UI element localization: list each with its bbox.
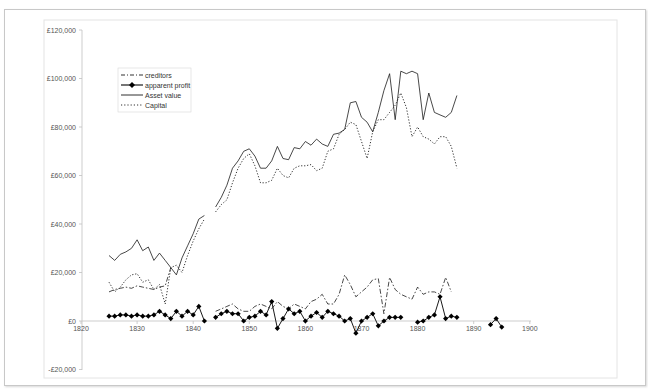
diamond-marker-icon: [443, 316, 448, 321]
diamond-marker-icon: [398, 315, 403, 320]
diamond-marker-icon: [426, 315, 431, 320]
series-creditors: [109, 268, 451, 314]
diamond-marker-icon: [202, 318, 207, 323]
diamond-marker-icon: [118, 312, 123, 317]
y-tick-label: £80,000: [51, 124, 76, 131]
legend-label: creditors: [145, 72, 172, 79]
x-tick-label: 1890: [466, 325, 482, 332]
diamond-marker-icon: [230, 311, 235, 316]
diamond-marker-icon: [387, 315, 392, 320]
diamond-marker-icon: [191, 312, 196, 317]
diamond-marker-icon: [432, 312, 437, 317]
y-tick-label: £40,000: [51, 221, 76, 228]
diamond-marker-icon: [106, 314, 111, 319]
diamond-marker-icon: [135, 312, 140, 317]
diamond-marker-icon: [213, 315, 218, 320]
line-chart: £120,000£100,000£80,000£60,000£40,000£20…: [0, 0, 648, 391]
diamond-marker-icon: [275, 326, 280, 331]
diamond-marker-icon: [140, 314, 145, 319]
legend-label: Capital: [145, 102, 167, 110]
diamond-marker-icon: [331, 311, 336, 316]
diamond-marker-icon: [454, 315, 459, 320]
x-tick-label: 1860: [298, 325, 314, 332]
series-line: [216, 275, 452, 314]
diamond-marker-icon: [163, 312, 168, 317]
diamond-marker-icon: [146, 314, 151, 319]
series-line: [216, 71, 457, 207]
diamond-marker-icon: [224, 309, 229, 314]
diamond-marker-icon: [123, 312, 128, 317]
diamond-marker-icon: [359, 318, 364, 323]
diamond-marker-icon: [112, 314, 117, 319]
diamond-marker-icon: [365, 315, 370, 320]
diamond-marker-icon: [280, 316, 285, 321]
legend-label: apparent profit: [145, 82, 190, 90]
x-tick-label: 1830: [129, 325, 145, 332]
y-tick-label: £120,000: [47, 27, 76, 34]
x-tick-label: 1880: [410, 325, 426, 332]
diamond-marker-icon: [269, 299, 274, 304]
diamond-marker-icon: [499, 324, 504, 329]
series-line: [109, 219, 204, 304]
diamond-marker-icon: [421, 318, 426, 323]
diamond-marker-icon: [370, 311, 375, 316]
y-tick-label: -£20,000: [48, 366, 76, 373]
diamond-marker-icon: [157, 309, 162, 314]
diamond-marker-icon: [297, 309, 302, 314]
x-tick-label: 1850: [242, 325, 258, 332]
diamond-marker-icon: [393, 315, 398, 320]
series-line: [109, 306, 204, 321]
series-line: [109, 268, 171, 292]
diamond-marker-icon: [219, 311, 224, 316]
diamond-marker-icon: [264, 312, 269, 317]
y-tick-label: £20,000: [51, 269, 76, 276]
diamond-marker-icon: [129, 314, 134, 319]
diamond-marker-icon: [247, 315, 252, 320]
y-tick-label: £100,000: [47, 75, 76, 82]
y-axis-ticks: £120,000£100,000£80,000£60,000£40,000£20…: [47, 27, 82, 374]
y-tick-label: £60,000: [51, 172, 76, 179]
x-tick-label: 1900: [522, 325, 538, 332]
legend: creditors apparent profit Asset value Ca…: [118, 68, 191, 112]
y-tick-label: £0: [68, 318, 76, 325]
diamond-marker-icon: [449, 314, 454, 319]
series-capital: [109, 93, 457, 304]
legend-label: Asset value: [145, 92, 181, 99]
x-tick-label: 1820: [73, 325, 89, 332]
series-line: [109, 216, 204, 275]
diamond-marker-icon: [348, 316, 353, 321]
x-tick-label: 1840: [185, 325, 201, 332]
diamond-marker-icon: [437, 294, 442, 299]
